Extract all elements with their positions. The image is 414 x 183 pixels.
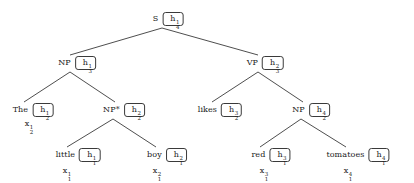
tree-node-s[interactable]: Sh14 [153,12,184,26]
node-label-tomatoes: tomatoes [326,151,364,159]
tree-node-tomatoes[interactable]: tomatoesh41 [326,148,389,162]
hidden-state-symbol-the: h12 [40,106,45,114]
hidden-state-symbol-tomatoes-base: h [376,150,381,159]
input-token-x-red: x31 [260,167,265,175]
hidden-state-symbol-boy-subscript: 1 [179,161,183,167]
node-label-likes: likes [198,106,217,114]
tree-node-little[interactable]: littleh11 [56,148,101,162]
tree-edge-s-np [70,28,162,55]
tree-node-np-star[interactable]: NP*h22 [103,103,145,117]
tree-node-likes[interactable]: likesh32 [198,103,242,117]
hidden-state-symbol-np-object: h42 [317,106,322,114]
hidden-state-symbol-s-subscript: 4 [176,25,180,31]
node-label-np-star: NP* [103,106,120,114]
tree-node-np-subject[interactable]: NPh13 [58,56,96,70]
node-label-boy: boy [147,151,162,159]
hidden-state-symbol-np-subject-base: h [83,58,88,67]
node-label-little: little [56,151,75,159]
hidden-state-symbol-vp-base: h [270,58,275,67]
tree-edge-np-npstar [70,72,115,102]
tree-node-np-object[interactable]: NPh42 [292,103,330,117]
hidden-state-symbol-tomatoes-subscript: 1 [382,161,386,167]
input-symbol-x-little: x11 [63,167,68,175]
tree-edge-npobj-red [260,119,301,147]
hidden-state-symbol-vp: h23 [270,59,275,67]
hidden-state-symbol-np-subject-subscript: 3 [88,69,92,75]
tree-edge-npstar-little [67,119,113,147]
tree-node-boy[interactable]: boyh21 [147,148,187,162]
node-label-the: The [13,106,29,114]
tree-node-red[interactable]: redh31 [251,148,290,162]
hidden-state-symbol-little-base: h [87,150,92,159]
input-symbol-x-boy: x21 [153,167,158,175]
tree-edge-vp-np [258,72,303,102]
parse-tree-diagram: Sh14NPh13VPh23Theh12NP*h22likesh32NPh42l… [0,0,414,183]
input-symbol-x-little-base: x [63,166,68,175]
hidden-state-box-boy[interactable]: h21 [166,148,187,162]
node-label-np-object: NP [292,106,305,114]
hidden-state-symbol-boy-base: h [174,150,179,159]
hidden-state-box-the[interactable]: h12 [32,103,53,117]
hidden-state-symbol-np-star: h22 [132,106,137,114]
hidden-state-box-np-star[interactable]: h22 [124,103,145,117]
input-symbol-x-the: x12 [25,120,30,128]
hidden-state-symbol-np-subject: h13 [83,59,88,67]
input-symbol-x-little-subscript: 1 [68,177,72,183]
tree-edge-npobj-tomatoes [301,119,346,147]
hidden-state-box-vp[interactable]: h23 [262,56,283,70]
hidden-state-box-s[interactable]: h14 [162,12,183,26]
tree-node-vp[interactable]: VPh23 [247,56,284,70]
node-label-red: red [251,151,265,159]
hidden-state-symbol-np-object-subscript: 2 [322,116,326,122]
hidden-state-box-np-object[interactable]: h42 [309,103,330,117]
input-symbol-x-tomatoes-base: x [344,166,349,175]
input-symbol-x-red: x31 [260,167,265,175]
tree-edge-vp-likes [212,72,258,102]
hidden-state-symbol-s-base: h [170,14,175,23]
hidden-state-symbol-likes: h32 [229,106,234,114]
hidden-state-box-tomatoes[interactable]: h41 [368,148,389,162]
input-token-x-little: x11 [63,167,68,175]
input-symbol-x-tomatoes: x41 [344,167,349,175]
hidden-state-symbol-little: h11 [87,151,92,159]
input-token-x-tomatoes: x41 [344,167,349,175]
input-symbol-x-red-base: x [260,166,265,175]
input-symbol-x-the-subscript: 2 [30,130,34,136]
hidden-state-symbol-boy: h21 [174,151,179,159]
node-label-s: S [153,15,159,23]
hidden-state-symbol-s: h14 [170,15,175,23]
input-symbol-x-boy-subscript: 1 [158,177,162,183]
hidden-state-box-little[interactable]: h11 [79,148,100,162]
tree-edge-s-vp [162,28,258,55]
tree-node-the[interactable]: Theh12 [13,103,54,117]
hidden-state-symbol-likes-subscript: 2 [235,116,239,122]
input-token-x-the: x12 [25,120,30,128]
input-symbol-x-tomatoes-subscript: 1 [349,177,353,183]
hidden-state-symbol-the-base: h [40,105,45,114]
input-symbol-x-red-subscript: 1 [265,177,269,183]
hidden-state-symbol-np-object-base: h [317,105,322,114]
hidden-state-symbol-tomatoes: h41 [376,151,381,159]
input-symbol-x-boy-base: x [153,166,158,175]
hidden-state-box-np-subject[interactable]: h13 [75,56,96,70]
node-label-vp: VP [247,59,258,67]
hidden-state-symbol-np-star-subscript: 2 [137,116,141,122]
hidden-state-symbol-vp-subscript: 3 [276,69,280,75]
tree-edge-np-the [24,72,70,102]
hidden-state-symbol-little-subscript: 1 [93,161,97,167]
hidden-state-symbol-the-subscript: 2 [46,116,50,122]
tree-edge-npstar-boy [113,119,156,147]
node-label-np-subject: NP [58,59,71,67]
input-token-x-boy: x21 [153,167,158,175]
hidden-state-box-likes[interactable]: h32 [221,103,242,117]
hidden-state-symbol-red-base: h [277,150,282,159]
hidden-state-box-red[interactable]: h31 [269,148,290,162]
input-symbol-x-the-base: x [25,119,30,128]
hidden-state-symbol-likes-base: h [229,105,234,114]
hidden-state-symbol-red: h31 [277,151,282,159]
hidden-state-symbol-np-star-base: h [132,105,137,114]
hidden-state-symbol-red-subscript: 1 [283,161,287,167]
